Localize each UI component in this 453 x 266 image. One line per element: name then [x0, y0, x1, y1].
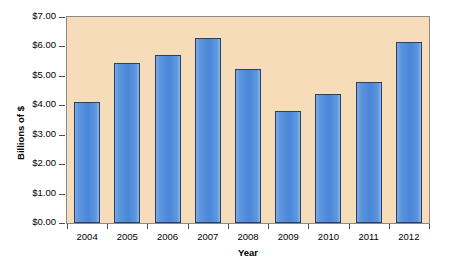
x-tick-mark: [349, 224, 350, 229]
bar[interactable]: [235, 69, 261, 224]
y-tick-mark: [59, 223, 65, 224]
bar-slot: [188, 17, 228, 223]
x-tick-label: 2004: [67, 231, 107, 245]
x-tick-label: 2012: [389, 231, 429, 245]
x-axis-ticks: [66, 224, 430, 230]
bar-slot: [389, 17, 429, 223]
x-tick-label: 2009: [268, 231, 308, 245]
y-tick-mark: [59, 17, 65, 18]
y-tick-mark: [59, 135, 65, 136]
bar-chart: Billions of $ $0.00$1.00$2.00$3.00$4.00$…: [0, 0, 453, 266]
bar-slot: [268, 17, 308, 223]
x-tick-mark: [147, 224, 148, 229]
bar[interactable]: [74, 102, 100, 223]
y-tick-label: $5.00: [32, 69, 56, 80]
y-tick-label: $6.00: [32, 39, 56, 50]
x-tick-label: 2008: [228, 231, 268, 245]
bar[interactable]: [315, 94, 341, 223]
x-tick-mark: [188, 224, 189, 229]
y-tick-mark: [59, 46, 65, 47]
x-tick-mark: [67, 224, 68, 229]
x-axis-labels: 200420052006200720082009201020112012: [67, 231, 429, 245]
bar[interactable]: [356, 82, 382, 223]
x-tick-mark: [389, 224, 390, 229]
bar[interactable]: [396, 42, 422, 223]
bar[interactable]: [195, 38, 221, 223]
y-tick-mark: [59, 76, 65, 77]
bars-container: [67, 17, 429, 223]
x-tick-label: 2010: [308, 231, 348, 245]
x-tick-mark: [228, 224, 229, 229]
y-tick-mark: [59, 105, 65, 106]
y-axis-title: Billions of $: [6, 0, 34, 266]
y-tick-label: $4.00: [32, 98, 56, 109]
bar-slot: [308, 17, 348, 223]
y-tick-label: $0.00: [32, 216, 56, 227]
y-tick-label: $7.00: [32, 10, 56, 21]
x-tick-label: 2006: [147, 231, 187, 245]
bar-slot: [147, 17, 187, 223]
x-axis-title: Year: [67, 247, 429, 258]
x-tick-mark: [107, 224, 108, 229]
x-tick-label: 2007: [188, 231, 228, 245]
y-tick-label: $2.00: [32, 157, 56, 168]
y-tick-mark: [59, 164, 65, 165]
bar[interactable]: [155, 55, 181, 223]
bar[interactable]: [114, 63, 140, 223]
y-tick-label: $1.00: [32, 187, 56, 198]
x-tick-mark: [308, 224, 309, 229]
x-tick-label: 2005: [107, 231, 147, 245]
y-tick-mark: [59, 194, 65, 195]
bar-slot: [67, 17, 107, 223]
x-tick-mark: [429, 224, 430, 229]
bar[interactable]: [275, 111, 301, 223]
bar-slot: [349, 17, 389, 223]
x-tick-mark: [268, 224, 269, 229]
bar-slot: [107, 17, 147, 223]
x-tick-label: 2011: [349, 231, 389, 245]
y-tick-label: $3.00: [32, 128, 56, 139]
bar-slot: [228, 17, 268, 223]
